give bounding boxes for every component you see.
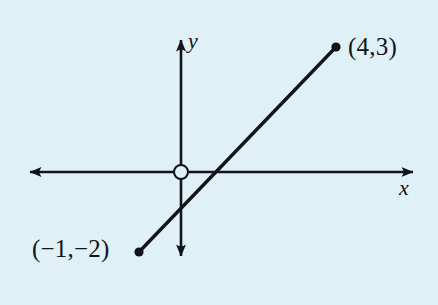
coordinate-plane-figure: y x (4,3) (−1,−2) [0, 0, 438, 305]
y-axis-label: y [188, 30, 198, 52]
x-axis-label: x [399, 177, 409, 199]
endpoint-dot-lower-left [134, 247, 143, 256]
point-label-upper-right: (4,3) [348, 34, 397, 59]
endpoint-dot-upper-right [331, 42, 340, 51]
origin-circle-icon [174, 165, 188, 179]
line-segment [139, 47, 336, 252]
point-label-lower-left: (−1,−2) [32, 236, 110, 261]
